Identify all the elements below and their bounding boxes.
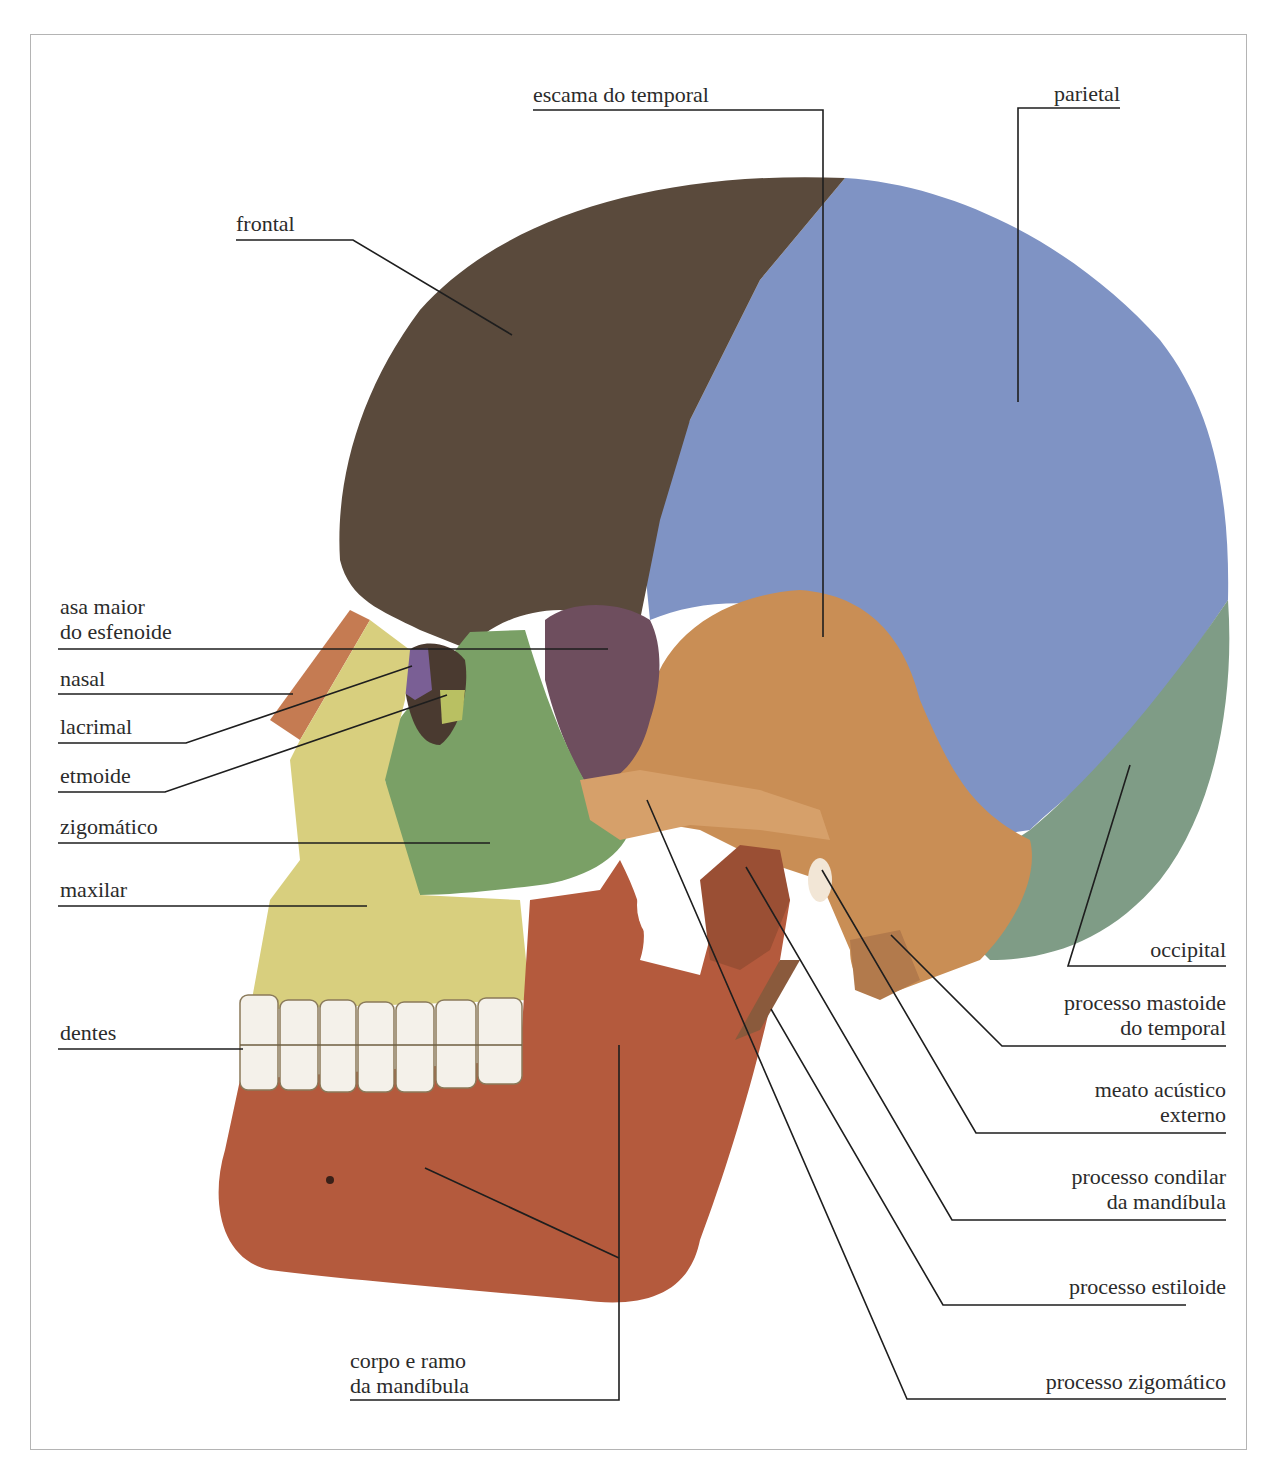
label-occipital: occipital xyxy=(1150,937,1226,962)
label-escama-temporal: escama do temporal xyxy=(533,82,709,107)
label-mastoide-line2: do temporal xyxy=(1120,1015,1226,1040)
label-etmoide: etmoide xyxy=(60,763,131,788)
label-condilar-line2: da mandíbula xyxy=(1107,1189,1226,1214)
label-corpo-line2: da mandíbula xyxy=(350,1373,469,1398)
mandibular-notch xyxy=(637,865,693,945)
label-processo-zigomatico: processo zigomático xyxy=(1046,1369,1226,1394)
label-nasal: nasal xyxy=(60,666,105,691)
skull-illustration xyxy=(0,0,1278,1461)
mental-foramen xyxy=(326,1176,334,1184)
label-zigomatico: zigomático xyxy=(60,814,158,839)
leader-estiloide xyxy=(771,1009,1186,1305)
label-corpo-line1: corpo e ramo xyxy=(350,1348,466,1373)
label-meato-line2: externo xyxy=(1160,1102,1226,1127)
label-maxilar: maxilar xyxy=(60,877,127,902)
label-lacrimal: lacrimal xyxy=(60,714,132,739)
label-dentes: dentes xyxy=(60,1020,116,1045)
label-condilar-line1: processo condilar xyxy=(1071,1164,1226,1189)
label-asa-maior-line1: asa maior xyxy=(60,594,145,619)
ethmoid-bone xyxy=(440,690,465,724)
label-asa-maior-line2: do esfenoide xyxy=(60,619,172,644)
label-parietal: parietal xyxy=(1054,81,1120,106)
label-frontal: frontal xyxy=(236,211,295,236)
label-estiloide: processo estiloide xyxy=(1069,1274,1226,1299)
label-meato-line1: meato acústico xyxy=(1095,1077,1226,1102)
teeth xyxy=(240,995,522,1092)
label-mastoide-line1: processo mastoide xyxy=(1064,990,1226,1015)
